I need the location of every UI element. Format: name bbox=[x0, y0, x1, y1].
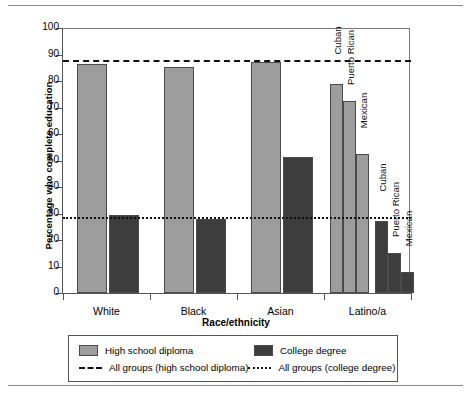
bar-col-15 bbox=[388, 253, 401, 293]
x-category-label-latino-a: Latino/a bbox=[349, 305, 386, 317]
x-tick-mark bbox=[150, 293, 151, 300]
bar-hs-53 bbox=[356, 154, 369, 293]
y-tick-label: 10 bbox=[48, 260, 59, 271]
y-tick-label: 100 bbox=[42, 21, 59, 32]
y-tick-label: 70 bbox=[48, 101, 59, 112]
y-tick-label: 90 bbox=[48, 48, 59, 59]
y-tick-label: 30 bbox=[48, 207, 59, 218]
y-tick-label: 80 bbox=[48, 74, 59, 85]
legend-item-all-groups-college: All groups (college degree) bbox=[248, 362, 395, 373]
y-tick-label: 20 bbox=[48, 233, 59, 244]
reference-line-high-school bbox=[63, 60, 411, 62]
chart-legend: High school diploma College degree All g… bbox=[68, 335, 398, 382]
legend-swatch-college-degree bbox=[254, 345, 273, 356]
bar-annotation-puerto-rican: Puerto Rican bbox=[344, 30, 355, 85]
legend-item-college-degree: College degree bbox=[254, 345, 346, 356]
legend-row-swatches: High school diploma College degree bbox=[79, 342, 387, 359]
x-axis-title: Race/ethnicity bbox=[62, 317, 410, 328]
y-tick-label: 50 bbox=[48, 154, 59, 165]
x-tick-mark bbox=[411, 293, 412, 300]
bar-hs-73 bbox=[343, 101, 356, 293]
page-rule-bottom bbox=[8, 385, 463, 386]
legend-item-all-groups-high-school: All groups (high school diploma) bbox=[79, 362, 248, 373]
x-tick-mark bbox=[324, 293, 325, 300]
x-category-label-asian: Asian bbox=[267, 305, 293, 317]
bar-annotation-puerto-rican: Puerto Rican bbox=[389, 182, 400, 237]
bar-annotation-cuban: Cuban bbox=[331, 26, 342, 54]
x-category-label-black: Black bbox=[181, 305, 207, 317]
legend-item-high-school-diploma: High school diploma bbox=[79, 345, 254, 356]
legend-label-all-groups-college: All groups (college degree) bbox=[278, 362, 395, 373]
legend-dashed-line-icon bbox=[79, 367, 102, 369]
bar-col-52 bbox=[283, 157, 313, 293]
legend-row-lines: All groups (high school diploma) All gro… bbox=[79, 359, 387, 376]
y-tick-label: 60 bbox=[48, 127, 59, 138]
bar-hs-87 bbox=[251, 62, 281, 293]
bar-col-27 bbox=[375, 221, 388, 293]
plot-area: 0102030405060708090100 CubanPuerto Rican… bbox=[62, 28, 411, 294]
x-category-label-white: White bbox=[93, 305, 120, 317]
bar-col-28 bbox=[196, 219, 226, 293]
bar-col-29 bbox=[109, 215, 139, 293]
x-tick-mark bbox=[237, 293, 238, 300]
legend-label-high-school-diploma: High school diploma bbox=[105, 345, 193, 356]
bar-hs-85 bbox=[164, 67, 194, 293]
x-tick-mark bbox=[63, 293, 64, 300]
bar-hs-79 bbox=[330, 84, 343, 293]
y-tick-label: 40 bbox=[48, 180, 59, 191]
page-rule-top bbox=[8, 5, 463, 6]
bar-chart-figure: Percentage who complete education 010203… bbox=[0, 10, 471, 380]
bar-col-8 bbox=[401, 272, 414, 293]
bar-hs-87 bbox=[77, 64, 107, 293]
bar-annotation-cuban: Cuban bbox=[376, 164, 387, 192]
legend-label-all-groups-high-school: All groups (high school diploma) bbox=[109, 362, 248, 373]
bar-annotation-mexican: Mexican bbox=[357, 93, 368, 128]
legend-swatch-high-school-diploma bbox=[79, 345, 98, 356]
y-tick-label: 0 bbox=[53, 286, 59, 297]
legend-dotted-line-icon bbox=[248, 367, 271, 369]
reference-line-college bbox=[63, 217, 411, 219]
legend-label-college-degree: College degree bbox=[280, 345, 346, 356]
